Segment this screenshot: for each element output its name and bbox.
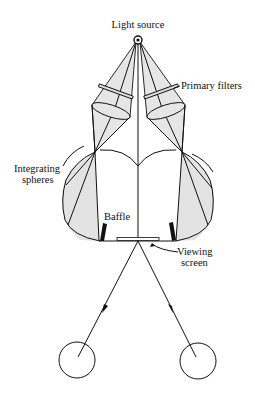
integrating-spheres-label-1: Integrating (14, 163, 61, 174)
viewing-screen-label-2: screen (181, 257, 209, 268)
left-sight-line (78, 241, 138, 357)
light-source (134, 36, 142, 44)
right-eye (180, 343, 216, 379)
baffle-label: Baffle (104, 211, 130, 222)
right-arrow-icon (168, 304, 173, 313)
right-baffle (169, 222, 176, 241)
viewing-screen (117, 238, 159, 241)
light-source-label: Light source (112, 19, 165, 30)
left-sphere-top-arc (100, 150, 138, 166)
right-integrating-sphere (176, 152, 214, 241)
viewing-screen-leader (152, 244, 178, 252)
left-baffle (100, 223, 107, 241)
right-sphere-top-arc (138, 150, 176, 166)
left-eye (59, 342, 95, 378)
primary-filters-label: Primary filters (181, 80, 242, 91)
colorimeter-diagram: Light source Primary filters Integrating… (0, 0, 255, 400)
viewing-screen-label-1: Viewing (177, 246, 213, 257)
left-integrating-sphere (62, 146, 100, 241)
integrating-spheres-label-2: spheres (22, 174, 54, 185)
